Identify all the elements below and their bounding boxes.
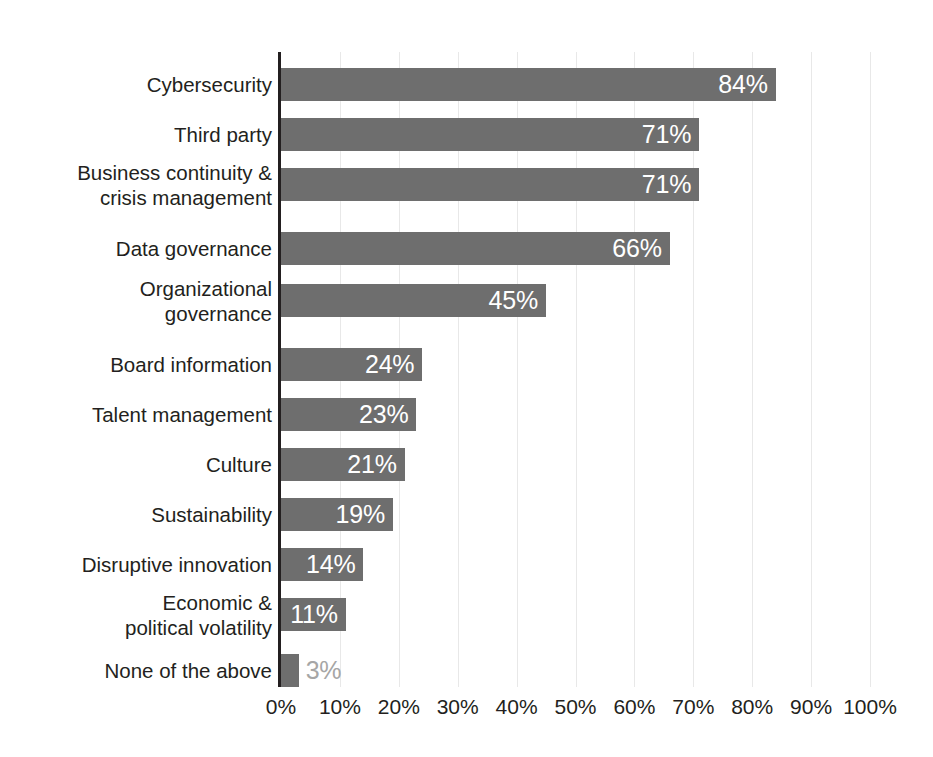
category-label: Third party	[0, 122, 272, 147]
bar[interactable]: 19%	[281, 498, 393, 531]
bar-row[interactable]: 3%	[281, 654, 870, 687]
category-label-list: CybersecurityThird partyBusiness continu…	[0, 52, 272, 687]
bar[interactable]: 84%	[281, 68, 776, 101]
bar-value-label: 21%	[347, 448, 396, 481]
bar[interactable]: 71%	[281, 118, 699, 151]
bar[interactable]: 14%	[281, 548, 363, 581]
bar[interactable]: 24%	[281, 348, 422, 381]
plot-area: 84%71%71%66%45%24%23%21%19%14%11%3%	[281, 52, 870, 687]
category-label: Talent management	[0, 402, 272, 427]
bar[interactable]: 45%	[281, 284, 546, 317]
bar-value-label: 19%	[335, 498, 384, 531]
category-label: Business continuity & crisis management	[0, 160, 272, 210]
bar-row[interactable]: 24%	[281, 348, 870, 381]
bar[interactable]: 3%	[281, 654, 299, 687]
bar-row[interactable]: 11%	[281, 598, 870, 631]
bar-value-label: 71%	[642, 118, 691, 151]
x-tick-label: 80%	[731, 694, 773, 720]
bar-row[interactable]: 21%	[281, 448, 870, 481]
bar-series: 84%71%71%66%45%24%23%21%19%14%11%3%	[281, 52, 870, 687]
category-label: Disruptive innovation	[0, 552, 272, 577]
x-tick-label: 90%	[790, 694, 832, 720]
bar-value-label: 23%	[359, 398, 408, 431]
x-tick-label: 100%	[843, 694, 897, 720]
bar-value-label: 3%	[306, 654, 342, 687]
x-axis-tick-labels: 0%10%20%30%40%50%60%70%80%90%100%	[281, 694, 933, 724]
bar-row[interactable]: 19%	[281, 498, 870, 531]
x-tick-label: 30%	[437, 694, 479, 720]
x-tick-label: 0%	[266, 694, 296, 720]
bar-value-label: 14%	[306, 548, 355, 581]
x-tick-label: 20%	[378, 694, 420, 720]
bar-row[interactable]: 71%	[281, 168, 870, 201]
bar[interactable]: 11%	[281, 598, 346, 631]
category-label: Board information	[0, 352, 272, 377]
bar-value-label: 71%	[642, 168, 691, 201]
x-tick-label: 10%	[319, 694, 361, 720]
category-label: Culture	[0, 452, 272, 477]
category-label: Cybersecurity	[0, 72, 272, 97]
bar[interactable]: 66%	[281, 232, 670, 265]
bar[interactable]: 21%	[281, 448, 405, 481]
bar-value-label: 66%	[612, 232, 661, 265]
bar-row[interactable]: 23%	[281, 398, 870, 431]
bar-row[interactable]: 71%	[281, 118, 870, 151]
x-tick-label: 70%	[672, 694, 714, 720]
bar-value-label: 84%	[718, 68, 767, 101]
bar-row[interactable]: 84%	[281, 68, 870, 101]
x-tick-label: 60%	[613, 694, 655, 720]
bar-value-label: 11%	[290, 598, 338, 631]
bar-row[interactable]: 66%	[281, 232, 870, 265]
x-tick-label: 40%	[496, 694, 538, 720]
gridline-100pct	[870, 52, 871, 687]
x-tick-label: 50%	[554, 694, 596, 720]
category-label: Organizational governance	[0, 276, 272, 326]
category-label: Sustainability	[0, 502, 272, 527]
bar[interactable]: 71%	[281, 168, 699, 201]
bar-chart: CybersecurityThird partyBusiness continu…	[0, 0, 933, 757]
bar-value-label: 45%	[489, 284, 538, 317]
bar-row[interactable]: 14%	[281, 548, 870, 581]
bar-value-label: 24%	[365, 348, 414, 381]
bar-row[interactable]: 45%	[281, 284, 870, 317]
category-label: Data governance	[0, 236, 272, 261]
category-label: None of the above	[0, 658, 272, 683]
category-label: Economic & political volatility	[0, 590, 272, 640]
bar[interactable]: 23%	[281, 398, 416, 431]
